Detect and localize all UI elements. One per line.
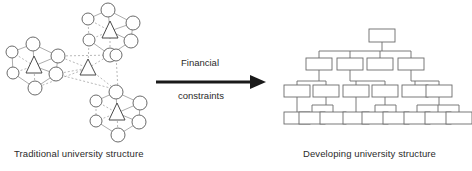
traditional-structure-diagram bbox=[0, 0, 175, 145]
network-node bbox=[124, 34, 138, 48]
tree-node-box bbox=[398, 58, 424, 70]
tree-node-box bbox=[367, 58, 393, 70]
tree-node-box bbox=[320, 112, 346, 124]
network-hub-triangle bbox=[102, 21, 118, 38]
inter-cluster-edges bbox=[35, 40, 118, 92]
network-node bbox=[28, 81, 42, 95]
tree-level-2 bbox=[306, 58, 424, 70]
network-node bbox=[7, 67, 19, 79]
cluster-left bbox=[6, 37, 65, 95]
network-node bbox=[90, 95, 102, 107]
tree-node-box bbox=[369, 29, 395, 42]
arrow-label-constraints: constraints bbox=[178, 90, 224, 101]
tree-node-box bbox=[284, 85, 310, 97]
network-hub-triangle bbox=[80, 59, 96, 75]
arrow-label-financial: Financial bbox=[181, 57, 219, 68]
tree-level-1 bbox=[369, 29, 395, 42]
tree-chart-svg bbox=[270, 16, 472, 138]
caption-traditional-structure: Traditional university structure bbox=[14, 148, 144, 159]
network-node bbox=[133, 96, 147, 110]
network-node bbox=[109, 85, 123, 99]
tree-level-4 bbox=[284, 112, 472, 124]
arrow-head-icon bbox=[250, 75, 266, 89]
caption-developing-structure: Developing university structure bbox=[303, 148, 436, 159]
tree-node-box bbox=[446, 112, 472, 124]
tree-node-box bbox=[337, 58, 363, 70]
network-graph-svg bbox=[0, 0, 175, 145]
network-node bbox=[51, 49, 65, 63]
tree-node-box bbox=[426, 85, 452, 97]
developing-structure-diagram bbox=[270, 16, 472, 138]
network-node bbox=[90, 115, 102, 127]
network-node bbox=[126, 16, 140, 30]
tree-level-3 bbox=[284, 85, 452, 97]
network-node bbox=[132, 115, 146, 129]
tree-node-box bbox=[402, 85, 428, 97]
network-node bbox=[26, 37, 40, 51]
tree-connectors bbox=[297, 42, 459, 112]
network-hub-triangle bbox=[109, 103, 125, 120]
network-node bbox=[83, 34, 95, 46]
tree-node-box bbox=[343, 85, 369, 97]
cluster-center bbox=[80, 49, 122, 75]
network-node bbox=[101, 3, 115, 17]
network-node bbox=[111, 128, 125, 142]
network-node bbox=[110, 49, 122, 61]
tree-node-box bbox=[306, 58, 332, 70]
network-node bbox=[49, 67, 63, 81]
tree-node-box bbox=[313, 85, 339, 97]
tree-node-box bbox=[372, 85, 398, 97]
network-node bbox=[82, 13, 94, 25]
figure-canvas: Financial constraints bbox=[0, 0, 472, 171]
cluster-bottom bbox=[90, 85, 147, 142]
network-node bbox=[6, 46, 18, 58]
network-hub-triangle bbox=[26, 56, 42, 73]
